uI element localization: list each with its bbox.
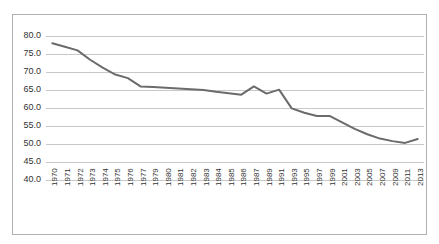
y-axis-tick-label: 80.0 [23, 30, 41, 40]
x-axis-tick-label: 1984 [214, 168, 223, 186]
x-axis-tick-label: 1986 [239, 168, 248, 186]
y-axis-tick-label: 40.0 [23, 174, 41, 184]
plot-area: 80.075.070.065.060.055.050.045.040.01970… [13, 15, 428, 236]
chart-container: 80.075.070.065.060.055.050.045.040.01970… [0, 0, 439, 244]
x-axis-tick-label: 1995 [302, 168, 311, 186]
x-axis-tick-label: 1973 [88, 168, 97, 186]
x-axis-tick-label: 1993 [290, 168, 299, 186]
y-axis-tick-label: 75.0 [23, 48, 41, 58]
line-chart-svg: 80.075.070.065.060.055.050.045.040.01970… [13, 15, 428, 236]
x-axis-tick-label: 1977 [139, 168, 148, 186]
x-axis-tick-label: 1981 [176, 168, 185, 186]
x-axis-tick-label: 2013 [416, 168, 425, 186]
y-axis-tick-label: 65.0 [23, 84, 41, 94]
x-axis-tick-label: 1997 [315, 168, 324, 186]
y-axis-tick-label: 60.0 [23, 102, 41, 112]
x-axis-tick-label: 1972 [76, 168, 85, 186]
y-axis-tick-label: 45.0 [23, 156, 41, 166]
x-axis-tick-label: 1974 [101, 168, 110, 186]
x-axis-tick-label: 1987 [252, 168, 261, 186]
x-axis-tick-label: 1999 [328, 168, 337, 186]
x-axis-tick-label: 1991 [277, 168, 286, 186]
x-axis-tick-label: 1985 [227, 168, 236, 186]
x-axis-tick-label: 1970 [50, 168, 59, 186]
x-axis-tick-label: 1976 [126, 168, 135, 186]
data-series-line [52, 43, 417, 143]
x-axis-tick-label: 1989 [265, 168, 274, 186]
x-axis-tick-label: 2011 [403, 168, 412, 186]
x-axis-tick-label: 1983 [202, 168, 211, 186]
x-axis-tick-label: 2005 [365, 168, 374, 186]
x-axis-tick-label: 2001 [340, 168, 349, 186]
y-axis-tick-label: 55.0 [23, 120, 41, 130]
x-axis-tick-label: 2007 [378, 168, 387, 186]
y-axis-tick-label: 50.0 [23, 138, 41, 148]
x-axis-tick-label: 2003 [353, 168, 362, 186]
x-axis-tick-label: 1979 [151, 168, 160, 186]
x-axis-tick-label: 2009 [391, 168, 400, 186]
x-axis-tick-label: 1980 [164, 168, 173, 186]
x-axis-tick-label: 1971 [63, 168, 72, 186]
chart-plot-frame: 80.075.070.065.060.055.050.045.040.01970… [12, 14, 427, 235]
x-axis-tick-label: 1975 [113, 168, 122, 186]
x-axis-tick-label: 1982 [189, 168, 198, 186]
y-axis-tick-label: 70.0 [23, 66, 41, 76]
